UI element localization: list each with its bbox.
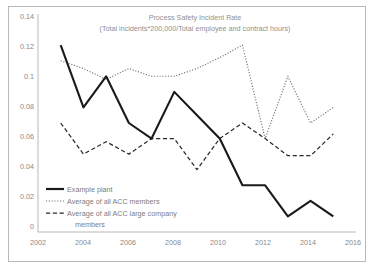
y-tick-label-0.1: 0.1 (24, 72, 34, 81)
x-tick-label-2016: 2016 (345, 238, 361, 247)
y-tick-label-0.02: 0.02 (20, 192, 34, 201)
legend: Example plant Average of all ACC members… (46, 185, 177, 229)
x-tick-label-2012: 2012 (255, 238, 271, 247)
y-tick-label-0.06: 0.06 (20, 132, 34, 141)
legend-label-acc-large-company-members-wrap: members (75, 220, 105, 229)
x-tick-label-2002: 2002 (30, 238, 46, 247)
legend-label-acc-members: Average of all ACC members (67, 197, 160, 206)
x-axis-tick-labels: 2002 2004 2006 2008 2010 2012 2014 2016 (30, 238, 361, 247)
chart-canvas: Process Safety Incident Rate (Total inci… (0, 0, 376, 277)
y-tick-label-0.04: 0.04 (20, 162, 34, 171)
y-tick-label-0.12: 0.12 (20, 42, 34, 51)
chart-title-group: Process Safety Incident Rate (Total inci… (100, 13, 291, 33)
x-tick-label-2014: 2014 (300, 238, 316, 247)
y-tick-label-0.08: 0.08 (20, 102, 34, 111)
y-axis-tick-labels: 0.14 0.12 0.1 0.08 0.06 0.04 0.02 0 (20, 12, 34, 231)
chart-title: Process Safety Incident Rate (149, 13, 242, 22)
x-tick-label-2008: 2008 (165, 238, 181, 247)
chart-subtitle: (Total incidents*200,000/Total employee … (100, 24, 291, 33)
line-chart-svg: Process Safety Incident Rate (Total inci… (0, 0, 376, 277)
legend-label-acc-large-company-members: Average of all ACC large company (67, 209, 177, 218)
legend-label-example-plant: Example plant (67, 185, 113, 194)
x-tick-label-2004: 2004 (75, 238, 91, 247)
x-tick-label-2010: 2010 (210, 238, 226, 247)
series-line-average-of-all-acc-members (61, 45, 334, 138)
y-tick-label-0: 0 (30, 222, 34, 231)
x-tick-label-2006: 2006 (120, 238, 136, 247)
series-line-average-of-all-acc-large-company-members (61, 123, 334, 170)
y-tick-label-0.14: 0.14 (20, 12, 34, 21)
